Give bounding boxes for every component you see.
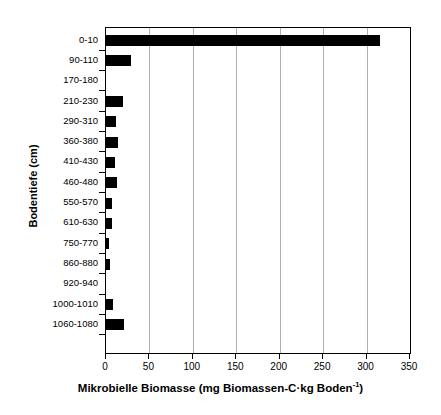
y-axis-tick-label: 360-380: [6, 136, 98, 146]
x-axis-tick: [366, 353, 367, 359]
bar: [106, 259, 110, 270]
y-axis-tick-label: 1000-1010: [6, 299, 98, 309]
gridline: [367, 28, 368, 353]
x-axis-ticks: [105, 353, 411, 361]
gridline: [236, 28, 237, 353]
bar: [106, 35, 380, 46]
y-axis-tick-label: 170-180: [6, 75, 98, 85]
bar: [106, 96, 123, 107]
y-axis-tick-label: 0-10: [6, 35, 98, 45]
gridline: [149, 28, 150, 353]
y-axis-tick-label: 610-630: [6, 217, 98, 227]
x-axis-title: Mikrobielle Biomasse (mg Biomassen-C·kg …: [0, 382, 441, 394]
gridline: [323, 28, 324, 353]
y-axis-tick-label: 860-880: [6, 258, 98, 268]
x-axis-tick: [409, 353, 410, 359]
plot-inner: [106, 28, 410, 353]
y-axis-tick-label: 1060-1080: [6, 319, 98, 329]
x-axis-title-end: ): [359, 382, 363, 394]
x-axis-tick: [148, 353, 149, 359]
y-axis-tick-label: 290-310: [6, 116, 98, 126]
x-axis-tick: [192, 353, 193, 359]
y-axis-tick-label: 750-770: [6, 238, 98, 248]
bar: [106, 157, 115, 168]
x-axis-tick: [322, 353, 323, 359]
x-axis-title-main: Mikrobielle Biomasse (mg Biomassen-C: [78, 382, 297, 394]
plot-area: [105, 27, 411, 354]
x-axis-tick-labels: 050100150200250300350: [0, 361, 441, 375]
x-axis-tick-label: 350: [384, 361, 434, 373]
x-axis-tick: [279, 353, 280, 359]
bar: [106, 198, 112, 209]
bar: [106, 177, 117, 188]
gridline: [280, 28, 281, 353]
bar: [106, 319, 124, 330]
bar: [106, 299, 113, 310]
gridline: [193, 28, 194, 353]
bar-chart: Bodentiefe (cm) 0-1090-110170-180210-230…: [0, 0, 441, 415]
bar: [106, 137, 118, 148]
bar: [106, 116, 116, 127]
y-axis-tick-label: 920-940: [6, 278, 98, 288]
y-axis-tick-label: 90-110: [6, 55, 98, 65]
x-axis-tick: [235, 353, 236, 359]
x-axis-title-mid: kg Boden: [300, 382, 352, 394]
y-axis-tick-labels: 0-1090-110170-180210-230290-310360-38041…: [6, 27, 102, 352]
y-axis-tick-label: 460-480: [6, 177, 98, 187]
x-axis-tick: [105, 353, 106, 359]
y-axis-tick-label: 410-430: [6, 156, 98, 166]
bar: [106, 55, 131, 66]
bar: [106, 218, 112, 229]
y-axis-tick-label: 550-570: [6, 197, 98, 207]
bar: [106, 238, 109, 249]
y-axis-tick-label: 210-230: [6, 96, 98, 106]
